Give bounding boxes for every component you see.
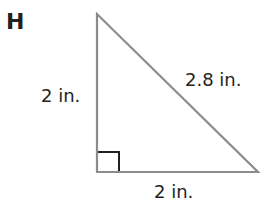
right-triangle <box>97 14 258 172</box>
left-leg-label: 2 in. <box>41 87 80 105</box>
bottom-leg-label: 2 in. <box>154 183 193 201</box>
hypotenuse-label: 2.8 in. <box>185 71 241 89</box>
right-angle-marker <box>98 152 119 171</box>
triangle-figure: H 2 in. 2.8 in. 2 in. <box>0 0 267 202</box>
